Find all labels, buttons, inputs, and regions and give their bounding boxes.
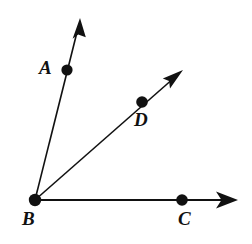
geometry-canvas bbox=[0, 0, 252, 244]
point-dot-c bbox=[176, 194, 188, 206]
point-label-c: C bbox=[178, 209, 191, 228]
ray-bc bbox=[35, 192, 238, 209]
ray-bd bbox=[35, 70, 183, 200]
point-dot-a bbox=[61, 64, 72, 75]
point-dot-b bbox=[29, 194, 41, 206]
point-dot-d bbox=[136, 96, 148, 108]
ray-bd-line bbox=[35, 78, 175, 201]
geometry-figure: A B C D bbox=[0, 0, 252, 244]
point-label-a: A bbox=[39, 58, 52, 77]
point-label-b: B bbox=[22, 209, 35, 228]
ray-ba bbox=[35, 18, 86, 200]
point-label-d: D bbox=[134, 110, 148, 129]
ray-ba-line bbox=[35, 27, 78, 201]
ray-ba-arrowhead bbox=[73, 18, 86, 39]
